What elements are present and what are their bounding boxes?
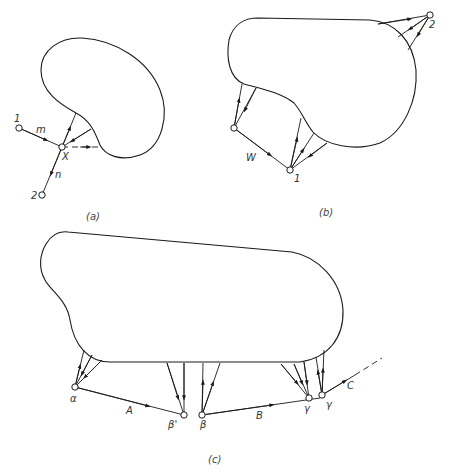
label-node-alpha: α xyxy=(70,393,77,404)
label-edge-A: A xyxy=(125,405,133,416)
label-node-1: 1 xyxy=(294,173,300,184)
node-a-1 xyxy=(16,125,22,131)
label-node-beta: β xyxy=(199,419,207,430)
region-a-outline xyxy=(41,38,164,158)
label-node-2: 2 xyxy=(31,190,37,201)
node-a-2 xyxy=(39,192,45,198)
label-edge-B: B xyxy=(256,410,263,421)
label-node-2: 2 xyxy=(429,19,435,30)
caption-a: (a) xyxy=(86,211,100,222)
node-b-1 xyxy=(287,167,293,173)
label-edge-m: m xyxy=(36,124,46,135)
label-node-1: 1 xyxy=(14,113,20,124)
label-node-X: X xyxy=(61,151,70,162)
label-node-gamma1: γ xyxy=(304,403,311,414)
label-edge-n: n xyxy=(55,169,61,180)
node-c-gamma2 xyxy=(319,392,325,398)
region-c-outline xyxy=(41,232,343,362)
node-c-beta-prime xyxy=(181,412,187,418)
panel-b: 1 2 W (b) xyxy=(228,12,435,218)
node-b-unlabeled xyxy=(231,125,237,131)
panel-a: 1 X 2 m n (a) xyxy=(14,38,164,222)
label-edge-W: W xyxy=(246,152,257,163)
caption-b: (b) xyxy=(319,207,333,218)
label-edge-C: C xyxy=(347,380,354,391)
caption-c: (c) xyxy=(208,454,221,465)
label-node-gamma2: γ xyxy=(326,399,333,410)
label-node-beta-prime: β' xyxy=(167,419,177,430)
node-c-beta xyxy=(199,412,205,418)
panel-c: α β' β γ γ A B C (c) xyxy=(41,232,382,465)
node-a-X xyxy=(59,144,65,150)
region-b-outline xyxy=(228,18,416,147)
diagram-canvas: 1 X 2 m n (a) 1 2 W (b xyxy=(0,0,450,472)
node-c-gamma1 xyxy=(306,395,312,401)
node-b-2 xyxy=(427,12,433,18)
node-c-alpha xyxy=(72,384,78,390)
